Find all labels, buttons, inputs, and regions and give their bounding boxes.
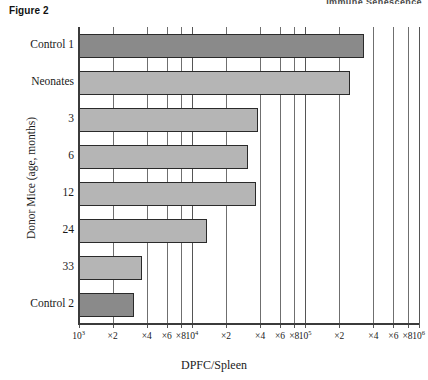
- bar: [79, 145, 248, 169]
- y-axis-tick-label: Neonates: [31, 75, 74, 87]
- y-axis-tick-label: 33: [63, 260, 75, 272]
- bar: [79, 108, 258, 132]
- gridline: [393, 27, 394, 323]
- x-axis-tick-label: 104: [178, 331, 206, 341]
- x-axis-tick-label: ×2: [325, 331, 353, 341]
- x-axis-tick-label: 103: [65, 331, 93, 341]
- y-axis-tick-label: Control 2: [30, 297, 74, 309]
- y-axis-tick-label: 12: [63, 186, 75, 198]
- y-axis-tick-label: Control 1: [30, 38, 74, 50]
- bar: [79, 219, 207, 243]
- y-axis-tick-label: 6: [68, 149, 74, 161]
- gridline: [419, 27, 420, 323]
- x-axis-tick-label: ×2: [99, 331, 127, 341]
- x-axis-tick-label: 106: [405, 331, 428, 341]
- y-axis-line: [78, 27, 80, 324]
- x-axis-tick-label: ×2: [212, 331, 240, 341]
- gridline: [373, 27, 374, 323]
- x-axis-title: DPFC/Spleen: [0, 358, 428, 373]
- y-axis-tick-label: 3: [68, 112, 74, 124]
- bar: [79, 256, 142, 280]
- figure-container: Immune Senescence Figure 2 Control 1Neon…: [0, 0, 428, 380]
- bar: [79, 182, 257, 206]
- x-axis-line: [78, 323, 419, 325]
- gridline: [408, 27, 409, 323]
- y-axis-title: Donor Mice (age, months): [25, 63, 37, 293]
- bar: [79, 293, 135, 317]
- bar-chart: Control 1Neonates36122433Control 2 103×2…: [0, 0, 428, 380]
- y-axis-tick-label: 24: [63, 223, 75, 235]
- bar: [79, 71, 351, 95]
- bar: [79, 34, 364, 58]
- x-axis-tick-label: 105: [291, 331, 319, 341]
